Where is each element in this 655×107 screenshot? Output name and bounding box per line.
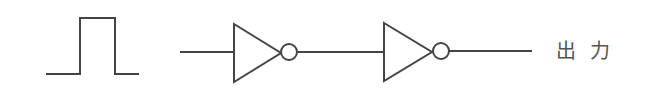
inverter-2-bubble	[433, 43, 449, 59]
inverter-1-triangle	[234, 24, 281, 82]
output-label: 出力	[556, 41, 624, 61]
input-pulse-waveform	[46, 18, 139, 74]
inverter-1-bubble	[281, 44, 297, 60]
inverter-2-triangle	[384, 23, 432, 81]
